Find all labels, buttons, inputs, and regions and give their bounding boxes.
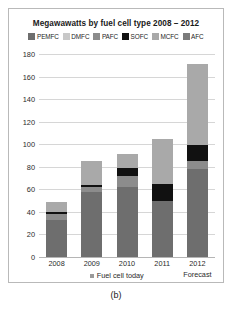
legend-swatch-pemfc-icon xyxy=(28,33,35,40)
legend-label: DMFC xyxy=(71,33,89,40)
bar-group-2011[interactable] xyxy=(152,139,173,257)
legend-item-afc[interactable]: AFC xyxy=(183,33,204,40)
bar-group-2010[interactable] xyxy=(117,154,138,257)
bar-segment-2010-mcfc[interactable] xyxy=(117,154,138,168)
chart-title: Megawawatts by fuel cell type 2008 – 201… xyxy=(9,19,223,28)
x-axis-labels: 20082009201020112012Forecast xyxy=(39,259,215,271)
y-axis-tick-label: 180 xyxy=(23,50,35,59)
bar-segment-2008-mcfc[interactable] xyxy=(46,202,67,212)
series-legend-label: Fuel cell today xyxy=(97,271,144,280)
bar-segment-2012-pemfc[interactable] xyxy=(187,169,208,257)
legend-swatch-afc-icon xyxy=(183,33,190,40)
chart-legend: PEMFCDMFCPAFCSOFCMCFCAFC xyxy=(9,33,223,40)
bar-segment-2010-sofc[interactable] xyxy=(117,168,138,176)
bar-segment-2010-pafc[interactable] xyxy=(117,176,138,187)
legend-swatch-pafc-icon xyxy=(93,33,100,40)
bar-group-2012[interactable] xyxy=(187,64,208,257)
y-axis-tick-label: 0 xyxy=(31,253,35,262)
plot-area: 180160140120100806040200 xyxy=(39,54,215,257)
legend-item-mcfc[interactable]: MCFC xyxy=(152,33,179,40)
x-axis-tick-label-2012: 2012 xyxy=(180,259,215,268)
bar-segment-2012-sofc[interactable] xyxy=(187,145,208,161)
y-axis-tick-label: 100 xyxy=(23,140,35,149)
y-axis-tick-label: 120 xyxy=(23,117,35,126)
bar-group-2009[interactable] xyxy=(81,161,102,257)
square-marker-icon xyxy=(90,274,94,278)
bar-segment-2009-mcfc[interactable] xyxy=(81,161,102,185)
y-axis-tick-label: 40 xyxy=(27,207,35,216)
y-axis-tick-label: 60 xyxy=(27,185,35,194)
bar-segment-2012-mcfc[interactable] xyxy=(187,64,208,145)
x-axis-tick-label-2011: 2011 xyxy=(145,259,180,268)
x-axis-tick-label-2008: 2008 xyxy=(39,259,74,268)
gridline-0 xyxy=(39,257,215,258)
y-axis-tick-label: 20 xyxy=(27,230,35,239)
bar-segment-2010-pemfc[interactable] xyxy=(117,187,138,257)
legend-label: PAFC xyxy=(102,33,118,40)
legend-swatch-sofc-icon xyxy=(122,33,129,40)
series-legend-fuel-cell-today: Fuel cell today xyxy=(9,271,225,280)
legend-label: MCFC xyxy=(160,33,178,40)
x-axis-tick-label-2010: 2010 xyxy=(109,259,144,268)
legend-label: SOFC xyxy=(131,33,148,40)
x-axis-tick-label-2009: 2009 xyxy=(74,259,109,268)
legend-swatch-dmfc-icon xyxy=(63,33,70,40)
y-axis-tick-label: 140 xyxy=(23,95,35,104)
legend-swatch-mcfc-icon xyxy=(152,33,159,40)
bar-segment-2012-pafc[interactable] xyxy=(187,161,208,169)
bar-series-container xyxy=(39,54,215,257)
legend-item-pemfc[interactable]: PEMFC xyxy=(28,33,58,40)
bar-segment-2009-pemfc[interactable] xyxy=(81,192,102,257)
figure-caption: (b) xyxy=(0,290,232,300)
legend-item-dmfc[interactable]: DMFC xyxy=(63,33,90,40)
bar-group-2008[interactable] xyxy=(46,202,67,257)
legend-label: PEMFC xyxy=(37,33,59,40)
bar-segment-2011-sofc[interactable] xyxy=(152,184,173,201)
legend-item-sofc[interactable]: SOFC xyxy=(122,33,148,40)
y-axis-tick-label: 80 xyxy=(27,162,35,171)
figure-panel: Megawawatts by fuel cell type 2008 – 201… xyxy=(0,0,232,313)
legend-item-pafc[interactable]: PAFC xyxy=(93,33,118,40)
bar-segment-2008-pemfc[interactable] xyxy=(46,220,67,257)
chart-frame: Megawawatts by fuel cell type 2008 – 201… xyxy=(8,8,224,283)
bar-segment-2011-pemfc[interactable] xyxy=(152,201,173,257)
bar-segment-2011-mcfc[interactable] xyxy=(152,139,173,184)
legend-label: AFC xyxy=(191,33,203,40)
y-axis-tick-label: 160 xyxy=(23,72,35,81)
